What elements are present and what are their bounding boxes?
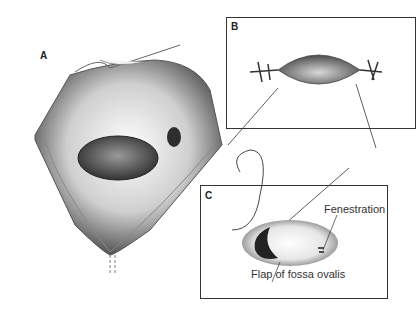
inset-panel-b: B: [226, 17, 416, 129]
inset-panel-c: C Fenestration Flap of fossa ovalis: [200, 185, 388, 299]
flap-label: Flap of fossa ovalis: [251, 268, 345, 280]
panel-label-b: B: [231, 21, 238, 32]
panel-label-c: C: [205, 190, 212, 201]
fenestration-label: Fenestration: [324, 203, 385, 215]
panel-label-a: A: [40, 50, 47, 61]
panel-a-atrium: [35, 45, 222, 275]
